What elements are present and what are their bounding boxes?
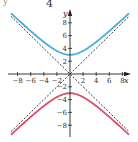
x-axis-label: x	[124, 76, 129, 85]
x-tick-label: −4	[39, 77, 50, 85]
y-axis-arrow-icon	[68, 9, 72, 16]
y-tick-label: 4	[63, 45, 68, 53]
y-tick-label: −2	[57, 83, 67, 91]
x-tick-label: 4	[94, 77, 99, 85]
x-tick-label: 8	[120, 77, 124, 85]
x-tick-label: −8	[12, 77, 22, 85]
y-tick-label: 6	[63, 32, 68, 40]
x-tick-label: −6	[26, 77, 37, 85]
y-axis-label: y	[62, 9, 68, 18]
y-tick-label: 2	[63, 58, 67, 66]
y-tick-label: −8	[57, 122, 67, 130]
y-tick-label: 8	[63, 19, 67, 27]
ticks: −8−6−4−22468−8−6−4−22468	[12, 19, 124, 129]
x-tick-label: 2	[81, 77, 85, 85]
y-tick-label: −4	[57, 96, 68, 104]
x-tick-label: 6	[107, 77, 112, 85]
y-tick-label: −6	[57, 109, 68, 117]
hyperbola-chart: xy −8−6−4−22468−8−6−4−22468	[0, 0, 138, 142]
